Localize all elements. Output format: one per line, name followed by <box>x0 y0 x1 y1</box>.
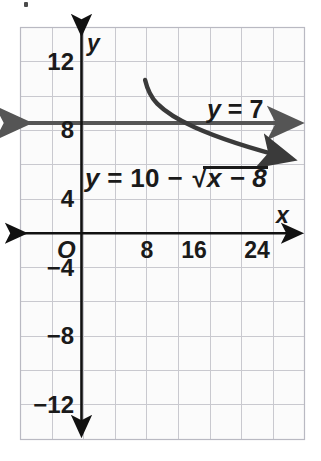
y-axis-label: y <box>87 32 100 55</box>
curve-equation-label: y = 10 − √x − 8 <box>85 165 267 191</box>
curve-equation-minus: − <box>167 163 182 193</box>
graph-figure: 12 8 4 −4 −8 −12 O 8 16 24 y x y = 7 y =… <box>0 0 321 461</box>
y-tick-label-8: 8 <box>28 118 74 142</box>
origin-label: O <box>57 238 76 262</box>
y-tick-label-12: 12 <box>28 50 74 74</box>
line-equation-lhs: y <box>207 95 221 123</box>
y-tick-label-4: 4 <box>28 187 74 211</box>
curve-equation-operator: = <box>107 163 122 193</box>
line-equation-rhs: 7 <box>249 95 263 123</box>
y-tick-label-neg8: −8 <box>20 324 74 348</box>
curve-equation-lhs: y <box>85 163 100 193</box>
x-tick-label-16: 16 <box>178 239 210 262</box>
x-tick-label-24: 24 <box>241 239 273 262</box>
line-equation-operator: = <box>228 95 243 123</box>
y-tick-label-neg12: −12 <box>14 393 74 417</box>
line-equation-label: y = 7 <box>207 97 263 122</box>
x-axis-label: x <box>276 204 289 227</box>
curve-equation-constant: 10 <box>130 163 160 193</box>
radical-vinculum <box>203 166 268 169</box>
radical-group: √x − 8 <box>190 165 267 191</box>
x-tick-label-8: 8 <box>131 239 163 262</box>
